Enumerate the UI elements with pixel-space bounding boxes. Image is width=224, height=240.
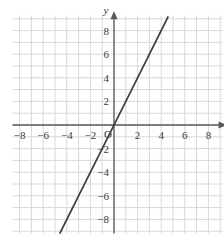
x-tick-label--8: −8 xyxy=(14,129,26,141)
y-tick-label--2: −2 xyxy=(97,143,109,155)
origin-label: O xyxy=(104,128,112,140)
y-tick-label--8: −8 xyxy=(97,213,109,225)
y-tick-label-2: 2 xyxy=(104,95,110,107)
x-tick-label-8: 8 xyxy=(206,129,212,141)
axis-lines xyxy=(13,11,224,233)
graph-canvas: −8−6−4−224688642−2−4−6−8Oxy xyxy=(0,0,224,240)
y-tick-label-4: 4 xyxy=(104,72,110,84)
x-axis-label: x xyxy=(223,128,224,140)
y-tick-label--6: −6 xyxy=(97,190,109,202)
coordinate-plane-figure: −8−6−4−224688642−2−4−6−8Oxy xyxy=(0,0,224,240)
y-axis-label: y xyxy=(103,4,109,16)
x-tick-label--6: −6 xyxy=(37,129,49,141)
y-axis-arrow-icon xyxy=(110,11,117,19)
x-tick-label--4: −4 xyxy=(61,129,73,141)
x-tick-label-2: 2 xyxy=(135,129,141,141)
y-tick-label--4: −4 xyxy=(97,166,109,178)
x-tick-label--2: −2 xyxy=(85,129,97,141)
y-tick-label-8: 8 xyxy=(104,25,110,37)
y-tick-label-6: 6 xyxy=(104,48,110,60)
x-tick-label-6: 6 xyxy=(182,129,188,141)
x-tick-label-4: 4 xyxy=(158,129,164,141)
